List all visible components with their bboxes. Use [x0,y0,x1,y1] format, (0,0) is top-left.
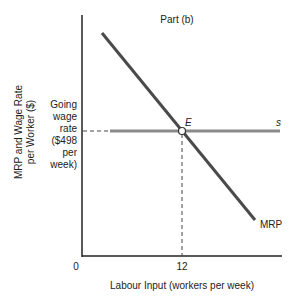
origin-label: 0 [73,261,79,272]
y-axis-label-group: MRP and Wage Rate per Worker ($) [13,85,36,179]
mrp-label: MRP [260,219,283,230]
x-tick-12: 12 [176,261,188,272]
wage-line-6: week) [49,159,77,170]
wage-line-2: wage [52,111,77,122]
wage-line-4: ($498 [51,135,77,146]
wage-annotation: Going wage rate ($498 per week) [49,99,77,170]
supply-label: s [276,117,281,128]
y-axis-label-line2: per Worker ($) [25,100,36,164]
mrp-curve [102,33,255,220]
x-axis-label: Labour Input (workers per week) [110,280,254,291]
wage-line-5: per [63,147,78,158]
wage-line-1: Going [50,99,77,110]
wage-line-3: rate [60,123,78,134]
point-e-label: E [185,117,192,128]
y-axis-label-line1: MRP and Wage Rate [13,85,24,179]
equilibrium-point [179,128,186,135]
chart-title: Part (b) [160,14,193,25]
chart: Part (b) MRP and Wage Rate per Worker ($… [0,0,302,302]
